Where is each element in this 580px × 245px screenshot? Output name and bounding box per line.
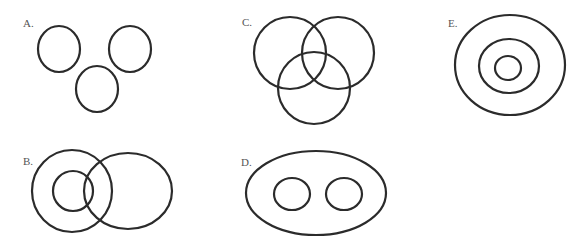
panel-c-label: C. — [242, 16, 252, 28]
panel-e-middle-circle — [479, 39, 539, 93]
panel-b-label: B. — [23, 155, 33, 167]
panel-d-left-circle — [274, 178, 310, 210]
panel-a-circle-3 — [76, 66, 118, 112]
panel-d-right-circle — [326, 178, 362, 210]
panel-b: B. — [23, 150, 172, 232]
panel-a: A. — [23, 17, 151, 112]
panel-c: C. — [242, 16, 374, 124]
panel-b-overlapping-ellipse — [84, 153, 172, 229]
panel-e: E. — [448, 15, 565, 115]
set-diagrams-canvas: A. B. C. D. E. — [0, 0, 580, 245]
panel-a-circle-1 — [38, 26, 80, 72]
panel-e-label: E. — [448, 17, 458, 29]
panel-e-outer-circle — [455, 15, 565, 115]
panel-a-circle-2 — [109, 26, 151, 72]
panel-d: D. — [241, 151, 386, 235]
panel-d-label: D. — [241, 156, 252, 168]
panel-d-outer-ellipse — [246, 151, 386, 235]
panel-e-inner-circle — [495, 56, 521, 80]
panel-a-label: A. — [23, 17, 34, 29]
